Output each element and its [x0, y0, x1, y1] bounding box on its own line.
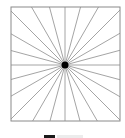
spoke-line [13, 65, 65, 138]
spoke-line [0, 13, 65, 65]
spoke-line [0, 65, 65, 117]
spoke-line [65, 65, 125, 138]
spoke-line [13, 0, 65, 65]
spoke-line [0, 0, 65, 65]
caption-faint-text [57, 135, 83, 138]
spoke-line [65, 13, 125, 65]
starburst-diagram [0, 0, 125, 138]
spoke-line [65, 65, 125, 117]
spoke-line [65, 65, 125, 138]
caption-dark-mark [44, 135, 55, 138]
spoke-line [65, 65, 125, 138]
radial-spokes [0, 0, 125, 138]
caption-clipped [44, 134, 84, 138]
spoke-line [65, 0, 117, 65]
center-dot [62, 62, 69, 69]
spoke-line [65, 65, 117, 138]
